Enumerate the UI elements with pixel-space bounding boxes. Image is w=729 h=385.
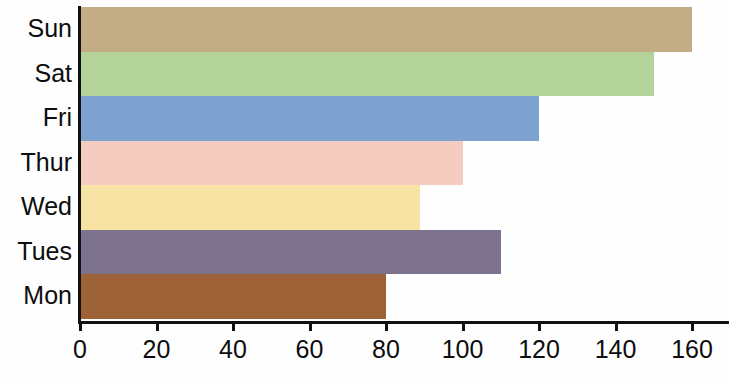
bar-row bbox=[80, 7, 729, 52]
x-tick-120 bbox=[538, 322, 541, 331]
y-axis-labels: SunSatFriThurWedTuesMon bbox=[0, 7, 72, 322]
x-tick-label-160: 160 bbox=[671, 337, 713, 362]
x-tick-label-100: 100 bbox=[442, 337, 484, 362]
y-tick-label-sun: Sun bbox=[2, 16, 72, 41]
y-tick-label-thur: Thur bbox=[2, 150, 72, 175]
bar-row bbox=[80, 141, 729, 186]
bar-wed bbox=[80, 185, 420, 230]
x-tick-160 bbox=[691, 322, 694, 331]
bar-fri bbox=[80, 96, 539, 141]
y-tick-label-mon: Mon bbox=[2, 283, 72, 308]
x-tick-label-120: 120 bbox=[518, 337, 560, 362]
y-tick-label-sat: Sat bbox=[2, 61, 72, 86]
x-tick-20 bbox=[156, 322, 159, 331]
y-axis-line bbox=[78, 6, 81, 323]
x-tick-80 bbox=[385, 322, 388, 331]
x-tick-label-80: 80 bbox=[372, 337, 400, 362]
bar-tues bbox=[80, 230, 501, 275]
bar-chart: SunSatFriThurWedTuesMon 0204060801001201… bbox=[0, 0, 729, 385]
x-axis-line bbox=[78, 321, 729, 324]
y-tick-label-fri: Fri bbox=[2, 105, 72, 130]
bar-sun bbox=[80, 7, 692, 52]
bar-row bbox=[80, 185, 729, 230]
x-tick-label-140: 140 bbox=[595, 337, 637, 362]
y-tick-label-wed: Wed bbox=[2, 194, 72, 219]
bar-row bbox=[80, 52, 729, 97]
x-tick-60 bbox=[309, 322, 312, 331]
x-tick-140 bbox=[615, 322, 618, 331]
bar-sat bbox=[80, 52, 654, 97]
bar-row bbox=[80, 230, 729, 275]
bar-row bbox=[80, 274, 729, 319]
x-tick-label-40: 40 bbox=[219, 337, 247, 362]
x-tick-0 bbox=[79, 322, 82, 331]
bar-mon bbox=[80, 274, 386, 319]
x-tick-label-60: 60 bbox=[296, 337, 324, 362]
x-tick-label-20: 20 bbox=[143, 337, 171, 362]
plot-area bbox=[80, 7, 729, 322]
x-tick-40 bbox=[232, 322, 235, 331]
x-tick-label-0: 0 bbox=[73, 337, 87, 362]
bar-thur bbox=[80, 141, 463, 186]
x-tick-100 bbox=[462, 322, 465, 331]
y-tick-label-tues: Tues bbox=[2, 239, 72, 264]
bar-row bbox=[80, 96, 729, 141]
